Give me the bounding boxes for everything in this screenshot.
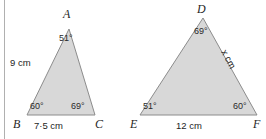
vertex-label-d: D xyxy=(197,3,206,15)
angle-label-e: 51° xyxy=(143,102,157,111)
angle-label-d: 69° xyxy=(194,27,208,36)
vertex-label-a: A xyxy=(63,8,70,20)
vertex-label-c: C xyxy=(95,118,103,130)
angle-label-f: 60° xyxy=(233,102,247,111)
geometry-figure: A B C 51° 60° 69° 9 cm 7·5 cm D E F 69° … xyxy=(0,0,266,139)
vertex-label-e: E xyxy=(130,118,137,130)
angle-label-a: 51° xyxy=(59,34,73,43)
side-label-bc: 7·5 cm xyxy=(34,121,63,131)
vertex-label-f: F xyxy=(253,118,260,130)
vertex-label-b: B xyxy=(13,118,20,130)
angle-label-b: 60° xyxy=(30,102,44,111)
side-label-ab: 9 cm xyxy=(10,58,31,68)
angle-label-c: 69° xyxy=(71,102,85,111)
side-label-ef: 12 cm xyxy=(176,121,202,131)
